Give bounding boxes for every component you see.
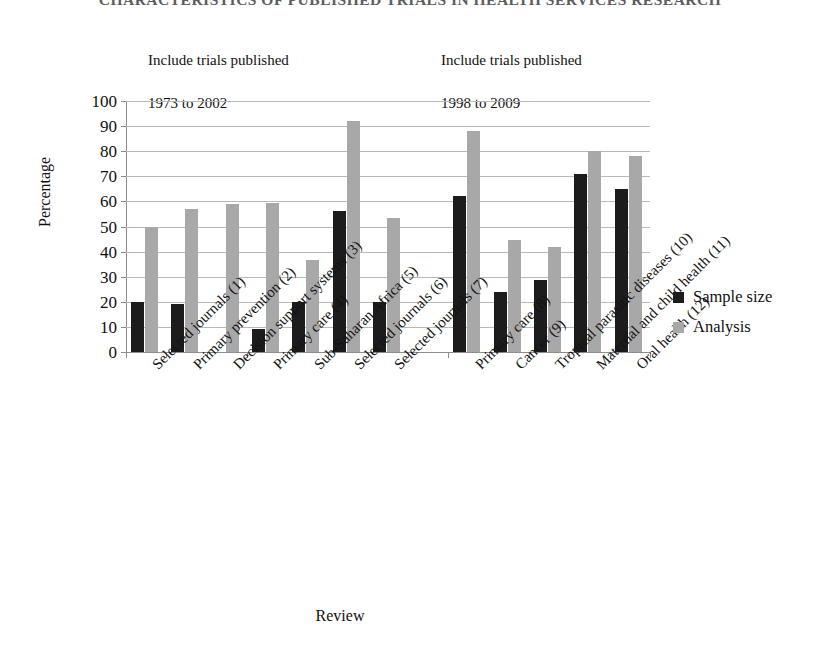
annotation-right-line1: Include trials published — [441, 50, 582, 72]
x-tick-mark — [126, 353, 127, 358]
legend-label: Analysis — [693, 317, 751, 337]
legend-swatch — [673, 292, 684, 303]
y-tick-label: 100 — [92, 93, 118, 110]
y-tick-label: 20 — [100, 293, 117, 310]
y-axis-title: Percentage — [36, 157, 54, 227]
y-tick-label: 60 — [100, 193, 117, 210]
y-tick-label: 50 — [100, 218, 117, 235]
bar-group — [126, 101, 166, 352]
legend: Sample sizeAnalysis — [673, 282, 772, 342]
y-tick-label: 70 — [100, 168, 117, 185]
x-tick-mark — [448, 353, 449, 358]
bar — [467, 131, 480, 352]
legend-item: Sample size — [673, 282, 772, 312]
bar — [574, 174, 587, 352]
legend-item: Analysis — [673, 312, 772, 342]
running-head: CHARACTERISTICS OF PUBLISHED TRIALS IN H… — [0, 0, 820, 9]
y-tick-label: 80 — [100, 143, 117, 160]
y-tick-label: 0 — [109, 344, 118, 361]
running-head-text: CHARACTERISTICS OF PUBLISHED TRIALS IN H… — [0, 0, 820, 9]
y-tick-label: 40 — [100, 243, 117, 260]
annotation-left-line1: Include trials published — [148, 50, 289, 72]
legend-swatch — [673, 322, 684, 333]
y-tick-label: 30 — [100, 268, 117, 285]
y-tick-label: 90 — [100, 118, 117, 135]
x-axis-title: Review — [0, 607, 680, 625]
bar — [131, 302, 144, 352]
legend-label: Sample size — [693, 287, 772, 307]
bar — [453, 196, 466, 352]
bar — [145, 227, 158, 353]
y-tick-label: 10 — [100, 318, 117, 335]
